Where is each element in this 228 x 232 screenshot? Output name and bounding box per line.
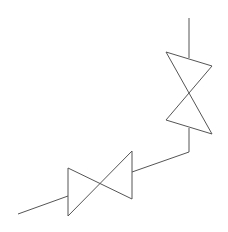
pipe-connector — [132, 128, 189, 172]
pipe-left — [18, 196, 68, 214]
valve-upper-icon — [166, 52, 212, 134]
diagram-svg — [0, 0, 228, 232]
valve-lower-icon — [68, 151, 132, 216]
piping-diagram — [0, 0, 228, 232]
